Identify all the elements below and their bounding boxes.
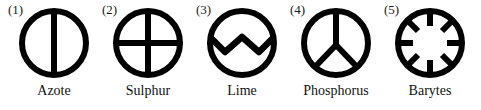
symbol-name-label: Phosphorus [288,83,384,98]
symbol-cell: (3) Lime [194,0,290,110]
symbol-name-label: Lime [194,83,290,98]
symbol-name-label: Azote [6,83,102,98]
circle-with-cross-icon [112,7,184,79]
symbol-cell: (5) Barytes [382,0,478,110]
symbol-name-label: Sulphur [100,83,196,98]
symbol-name-label: Barytes [382,83,478,98]
circle-with-peace-fork-icon [300,7,372,79]
symbol-cell: (4) Phosphorus [288,0,384,110]
circle-with-vertical-bar-icon [18,7,90,79]
circle-with-eight-inward-spokes-icon [394,7,466,79]
circle-with-zigzag-icon [206,7,278,79]
symbol-cell: (1) Azote [6,0,102,110]
symbol-cell: (2) Sulphur [100,0,196,110]
chemical-symbols-figure: (1) Azote (2) Sulphur (3) Lime [0,0,481,110]
